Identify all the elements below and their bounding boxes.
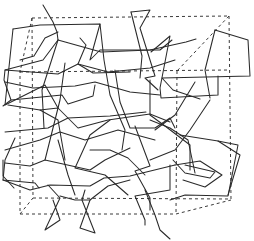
framework-bond-chain <box>75 120 128 195</box>
unit-cell-edge <box>33 198 231 199</box>
framework-bond-chain <box>5 130 155 150</box>
framework-bond-chain <box>11 85 95 104</box>
framework-bond-chain <box>3 5 58 106</box>
framework-bond-chain <box>42 40 58 128</box>
unit-cell-edge <box>176 71 177 214</box>
framework-bond-chain <box>175 161 222 187</box>
network-structure-figure <box>0 0 254 241</box>
unit-cell-edge <box>176 200 231 214</box>
framework-bond-chain <box>80 190 95 233</box>
network-diagram <box>0 0 254 241</box>
framework-bond-chain <box>150 120 195 173</box>
unit-cell-edge <box>20 198 33 214</box>
framework-bond-chain <box>150 100 210 160</box>
framework-bond-chain <box>131 12 142 78</box>
framework-bond-chain <box>5 148 130 170</box>
framework-bond-chain <box>3 165 175 190</box>
framework-bond-chain <box>20 32 58 60</box>
unit-cell-edge <box>32 18 33 198</box>
framework-bond-chain <box>205 30 215 98</box>
unit-cell-edge <box>32 16 229 18</box>
unit-cell-edge <box>229 16 231 200</box>
framework-bond-chain <box>45 185 60 230</box>
framework-bond-chain <box>5 60 175 74</box>
framework-bond-chain <box>90 150 145 175</box>
framework-bonds <box>3 5 250 239</box>
unit-cell-edge <box>177 16 229 71</box>
framework-bond-chain <box>58 140 75 195</box>
